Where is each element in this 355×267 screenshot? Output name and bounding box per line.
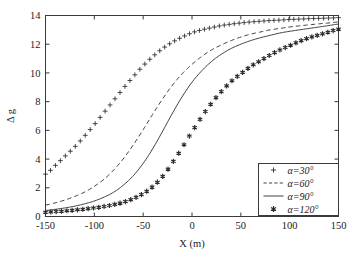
gravity-anomaly-chart: -150-100-50050100150 02468101214 X (m)Δ … (0, 0, 355, 267)
y-tick-label: 14 (30, 10, 41, 21)
x-tick-label: 50 (236, 220, 247, 231)
x-tick-label: 100 (282, 220, 298, 231)
y-tick-label: 12 (30, 39, 41, 50)
x-tick-label: 150 (331, 220, 347, 231)
legend-label: α=60° (288, 178, 314, 189)
x-tick-label: -50 (136, 220, 150, 231)
x-axis-title: X (m) (179, 238, 205, 250)
legend-label: α=120° (288, 204, 319, 215)
y-tick-label: 4 (35, 154, 41, 165)
legend: α=30°α=60°α=90°α=120° (259, 164, 339, 216)
y-tick-label: 0 (35, 211, 40, 222)
y-tick-label: 8 (35, 96, 40, 107)
y-tick-label: 10 (30, 68, 41, 79)
y-axis-title: Δ g (5, 108, 16, 123)
x-tick-label: 0 (189, 220, 194, 231)
y-tick-label: 6 (35, 125, 40, 136)
x-tick-label: -100 (85, 220, 104, 231)
figure-container: -150-100-50050100150 02468101214 X (m)Δ … (0, 0, 355, 267)
y-tick-label: 2 (35, 182, 40, 193)
legend-label: α=30° (288, 165, 314, 176)
legend-label: α=90° (288, 191, 314, 202)
